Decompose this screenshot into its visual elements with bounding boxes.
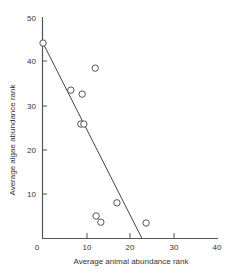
regression-line — [43, 43, 142, 238]
data-point — [79, 91, 85, 97]
x-axis-title: Average animal abundance rank — [73, 257, 189, 266]
data-point — [143, 220, 149, 226]
y-tick-label-30: 30 — [27, 102, 36, 111]
data-point — [68, 87, 74, 93]
x-tick-label-10: 10 — [83, 243, 92, 252]
data-point — [92, 65, 98, 71]
scatter-chart: 50 40 30 20 10 0 10 20 30 40 Average ani… — [0, 0, 234, 279]
y-tick-label-20: 20 — [27, 146, 36, 155]
x-tick-label-20: 20 — [126, 243, 135, 252]
data-point — [81, 121, 87, 127]
x-tick-label-30: 30 — [170, 243, 179, 252]
data-point — [40, 40, 46, 46]
data-point — [98, 219, 104, 225]
y-axis-title: Average algae abundance rank — [8, 83, 17, 195]
y-tick-label-40: 40 — [27, 57, 36, 66]
data-points — [40, 40, 149, 226]
data-point — [93, 213, 99, 219]
x-tick-label-0: 0 — [35, 243, 40, 252]
data-point — [114, 200, 120, 206]
y-tick-label-10: 10 — [27, 190, 36, 199]
x-tick-label-40: 40 — [213, 243, 222, 252]
y-tick-label-50: 50 — [27, 14, 36, 23]
x-ticks: 0 10 20 30 40 — [35, 233, 222, 252]
